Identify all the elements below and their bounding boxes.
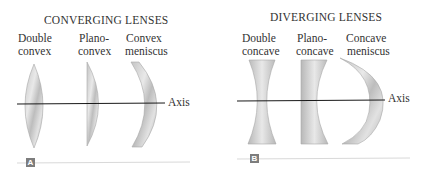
label-line: concave bbox=[296, 45, 334, 58]
convex-meniscus-lens bbox=[131, 62, 157, 147]
converging-lenses-title: CONVERGING LENSES bbox=[44, 14, 168, 26]
concave-meniscus-lens bbox=[340, 58, 383, 144]
label-line: Double bbox=[242, 32, 280, 45]
axis-label-a: Axis bbox=[168, 96, 190, 108]
panel-badge-a: A bbox=[26, 158, 35, 167]
panel-badge-b: B bbox=[250, 154, 259, 163]
label-line: convex bbox=[18, 45, 52, 58]
double-convex-lens bbox=[25, 64, 43, 148]
panel-rule-a bbox=[17, 162, 190, 163]
label-line: convex bbox=[78, 45, 111, 58]
plano-concave-lens bbox=[301, 60, 328, 144]
label-plano-convex: Plano- convex bbox=[78, 32, 111, 57]
lens-diagram bbox=[0, 0, 423, 180]
label-plano-concave: Plano- concave bbox=[296, 32, 334, 57]
label-line: Plano- bbox=[78, 32, 111, 45]
label-line: Plano- bbox=[296, 32, 334, 45]
label-line: meniscus bbox=[346, 45, 390, 58]
label-line: meniscus bbox=[125, 45, 168, 58]
label-line: Double bbox=[18, 32, 52, 45]
panel-rule-b bbox=[237, 158, 410, 159]
label-line: concave bbox=[242, 45, 280, 58]
label-line: Concave bbox=[346, 32, 390, 45]
label-concave-meniscus: Concave meniscus bbox=[346, 32, 390, 57]
double-concave-lens bbox=[248, 60, 276, 144]
axis-label-b: Axis bbox=[388, 92, 410, 104]
label-double-convex: Double convex bbox=[18, 32, 52, 57]
label-double-concave: Double concave bbox=[242, 32, 280, 57]
label-line: Convex bbox=[125, 32, 168, 45]
converging-lenses bbox=[25, 62, 157, 148]
label-convex-meniscus: Convex meniscus bbox=[125, 32, 168, 57]
diverging-lenses-title: DIVERGING LENSES bbox=[270, 11, 382, 23]
